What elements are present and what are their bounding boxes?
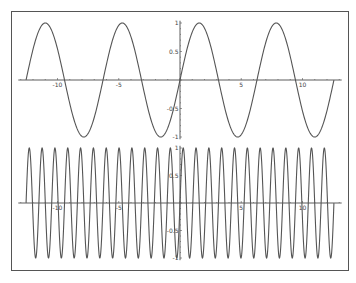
y-tick-label: 1 <box>175 19 179 26</box>
x-tick-label: 5 <box>239 204 243 211</box>
plots-canvas: -10-551010.5-0.5-1 -10-551010.5-0.5-1 <box>0 0 356 283</box>
sine-plot-top: -10-551010.5-0.5-1 <box>18 19 341 140</box>
x-tick-label: -10 <box>53 204 63 211</box>
y-tick-label: 0.5 <box>169 48 179 55</box>
x-tick-label: 5 <box>239 81 243 88</box>
x-tick-label: -5 <box>116 81 122 88</box>
y-tick-label: -0.5 <box>167 227 179 234</box>
x-tick-label: -5 <box>116 204 122 211</box>
x-tick-label: -10 <box>53 81 63 88</box>
y-tick-label: 1 <box>175 144 179 151</box>
y-tick-label: -1 <box>173 133 179 140</box>
sine-plot-bottom: -10-551010.5-0.5-1 <box>18 144 341 261</box>
y-tick-label: 0.5 <box>169 172 179 179</box>
x-tick-label: 10 <box>299 81 307 88</box>
